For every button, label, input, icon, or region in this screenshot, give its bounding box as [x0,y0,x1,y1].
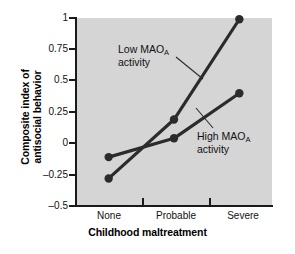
y-tick-label: 1 [62,13,68,23]
annotation-low-mao-line1: Low MAOA [118,44,169,57]
y-tick-mark [69,142,76,144]
y-tick-label: 0.25 [49,107,68,117]
y-axis-title: Composite index of antisocial behavior [19,42,43,192]
y-tick-label: 0.75 [49,44,68,54]
x-tick-label-probable: Probable [156,210,196,221]
x-axis-line [75,205,273,207]
y-tick-mark [69,205,76,207]
y-tick-label: –0.5 [49,201,68,211]
y-tick-mark [69,17,76,19]
annotation-high-mao-subscript: A [245,135,250,144]
y-tick-label: 0.5 [54,75,68,85]
annotation-high-mao: High MAOA activity [197,131,250,155]
annotation-high-mao-line2: activity [197,144,250,156]
x-tick-mark [142,198,144,206]
annotation-low-mao: Low MAOA activity [118,44,169,68]
y-tick-mark [69,111,76,113]
chart-figure: 1 0.75 0.5 0.25 0 –0.25 –0.5 None Probab… [0,0,295,254]
x-axis-title: Childhood maltreatment [0,226,295,238]
y-tick-label: –0.25 [43,170,68,180]
x-tick-label-none: None [97,210,121,221]
y-tick-mark [69,48,76,50]
x-tick-mark [209,198,211,206]
y-tick-mark [69,174,76,176]
y-tick-label: 0 [62,138,68,148]
y-axis-title-line1: Composite index of [19,42,31,192]
plot-area [76,18,272,206]
y-axis-title-line2: antisocial behavior [31,42,43,192]
annotation-high-mao-text: High MAO [197,130,245,142]
x-tick-label-severe: Severe [227,210,259,221]
annotation-low-mao-line2: activity [118,57,169,69]
annotation-low-mao-text: Low MAO [118,43,164,55]
annotation-low-mao-subscript: A [164,48,169,57]
y-tick-mark [69,79,76,81]
annotation-high-mao-line1: High MAOA [197,131,250,144]
